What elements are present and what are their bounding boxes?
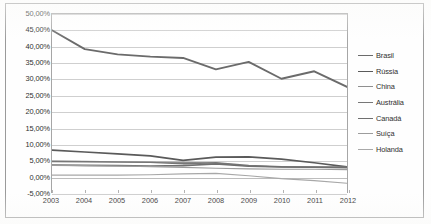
x-axis-tick-label: 2004	[76, 196, 92, 205]
series-line-brasil	[52, 30, 347, 87]
y-axis-tick-label: 50,00%	[6, 9, 50, 18]
y-axis-tick-label: 0,00%	[6, 172, 50, 181]
x-axis-tick-label: 2006	[142, 196, 158, 205]
legend-label: Brasil	[376, 51, 394, 60]
legend-line-swatch-icon	[358, 149, 373, 150]
y-axis-tick-label: 20,00%	[6, 107, 50, 116]
legend-line-swatch-icon	[358, 102, 373, 103]
series-lines	[52, 14, 347, 193]
legend-item-brasil[interactable]: Brasil	[358, 48, 426, 64]
legend-label: Suíça	[376, 129, 394, 138]
x-axis-tick-label: 2010	[274, 196, 290, 205]
y-axis-tick-label: 45,00%	[6, 25, 50, 34]
legend-label: Canadá	[376, 114, 401, 123]
y-axis-tick-label: 15,00%	[6, 123, 50, 132]
plot-area	[51, 13, 348, 193]
legend-label: Holanda	[376, 145, 403, 154]
legend-item-holanda[interactable]: Holanda	[358, 142, 426, 158]
y-axis-tick-label: 40,00%	[6, 41, 50, 50]
legend-line-swatch-icon	[358, 86, 373, 87]
legend-item-austrlia[interactable]: Austrália	[358, 95, 426, 111]
y-axis-tick-label: 25,00%	[6, 90, 50, 99]
chart-legend: BrasilRússiaChinaAustráliaCanadáSuíçaHol…	[358, 48, 426, 157]
x-axis-labels: 2003200420052006200720082009201020112012	[51, 196, 348, 212]
gridline	[52, 194, 347, 195]
x-axis-tick-label: 2007	[175, 196, 191, 205]
legend-label: China	[376, 82, 395, 91]
y-axis-tick-label: 5,00%	[6, 156, 50, 165]
legend-line-swatch-icon	[358, 133, 373, 134]
legend-label: Rússia	[376, 67, 398, 76]
legend-label: Austrália	[376, 98, 404, 107]
y-axis-tick-label: 35,00%	[6, 58, 50, 67]
x-axis-tick-label: 2005	[109, 196, 125, 205]
legend-line-swatch-icon	[358, 118, 373, 119]
legend-item-china[interactable]: China	[358, 79, 426, 95]
legend-item-rssia[interactable]: Rússia	[358, 64, 426, 80]
y-axis-tick-label: 30,00%	[6, 74, 50, 83]
legend-line-swatch-icon	[358, 71, 373, 72]
legend-line-swatch-icon	[358, 55, 373, 56]
x-axis-tick-label: 2008	[208, 196, 224, 205]
x-axis-tick-label: 2012	[340, 196, 356, 205]
x-axis-tick-label: 2011	[307, 196, 323, 205]
y-axis-tick-label: 10,00%	[6, 139, 50, 148]
x-axis-tick-label: 2003	[43, 196, 59, 205]
y-axis-labels: 50,00%45,00%40,00%35,00%30,00%25,00%20,0…	[6, 13, 50, 193]
x-axis-tick-label: 2009	[241, 196, 257, 205]
x-axis-tick	[349, 190, 350, 193]
series-line-holanda	[52, 173, 347, 183]
legend-item-sua[interactable]: Suíça	[358, 126, 426, 142]
chart-figure: 50,00%45,00%40,00%35,00%30,00%25,00%20,0…	[0, 0, 431, 224]
legend-item-canad[interactable]: Canadá	[358, 110, 426, 126]
